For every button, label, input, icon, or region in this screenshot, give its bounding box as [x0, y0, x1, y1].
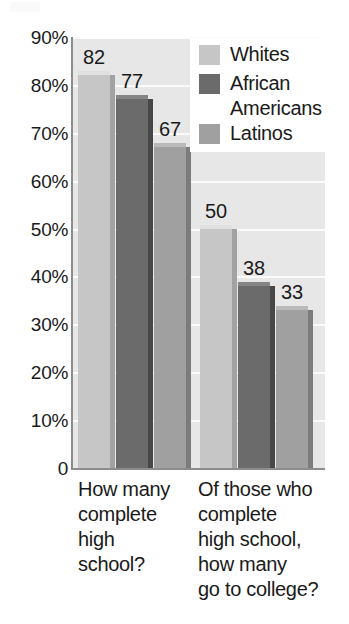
bar-top-face: [116, 95, 148, 99]
bar-side-face: [148, 99, 153, 468]
y-tick-label-70pct: 70%: [2, 124, 68, 143]
y-tick-label-10pct: 10%: [2, 411, 68, 430]
bar-value-label-50: 50: [194, 201, 238, 221]
y-tick-label-40pct: 40%: [2, 267, 68, 286]
y-axis-tick-labels: 90%80%70%60%50%40%30%20%10%0: [0, 0, 68, 624]
bar-top-face: [200, 225, 232, 229]
bar-top-face: [78, 71, 110, 75]
bar-value-label-82: 82: [72, 47, 116, 67]
y-tick-label-90pct: 90%: [2, 28, 68, 47]
bar-g0-s1: [116, 99, 148, 468]
category-caption-1: Of those who complete high school, how m…: [198, 477, 346, 602]
y-tick-label-80pct: 80%: [2, 76, 68, 95]
bar-value-label-33: 33: [270, 282, 314, 302]
legend-swatch-2: [199, 124, 220, 144]
y-tick-label-20pct: 20%: [2, 363, 68, 382]
bar-g0-s2: [154, 147, 186, 468]
legend-label-1: African Americans: [230, 71, 322, 121]
legend: WhitesAfrican AmericansLatinos: [190, 38, 326, 152]
bar-side-face: [270, 286, 275, 468]
y-tick-label-30pct: 30%: [2, 315, 68, 334]
bar-side-face: [308, 310, 313, 468]
bar-g1-s1: [238, 286, 270, 468]
legend-item-1: African Americans: [199, 71, 322, 121]
category-caption-0: How many complete high school?: [78, 477, 188, 577]
bar-top-face: [238, 282, 270, 286]
bar-g0-s0: [78, 75, 110, 468]
y-tick-label-0: 0: [2, 459, 68, 478]
y-tick-label-60pct: 60%: [2, 172, 68, 191]
legend-swatch-1: [199, 74, 220, 94]
bar-g1-s0: [200, 229, 232, 468]
y-tick-label-50pct: 50%: [2, 220, 68, 239]
x-axis-line: [71, 468, 325, 470]
legend-swatch-0: [199, 45, 220, 65]
bar-value-label-38: 38: [232, 258, 276, 278]
bar-top-face: [154, 143, 186, 147]
y-axis-line: [71, 37, 73, 470]
bar-side-face: [186, 147, 191, 468]
bar-value-label-67: 67: [148, 119, 192, 139]
bar-top-face: [276, 306, 308, 310]
legend-label-0: Whites: [230, 42, 289, 67]
bar-value-label-77: 77: [110, 71, 154, 91]
bar-side-face: [110, 75, 115, 468]
bar-chart: 90%80%70%60%50%40%30%20%10%0 82776750383…: [0, 0, 349, 624]
bar-g1-s2: [276, 310, 308, 468]
legend-item-0: Whites: [199, 42, 289, 67]
legend-label-2: Latinos: [230, 121, 292, 146]
legend-item-2: Latinos: [199, 121, 292, 146]
